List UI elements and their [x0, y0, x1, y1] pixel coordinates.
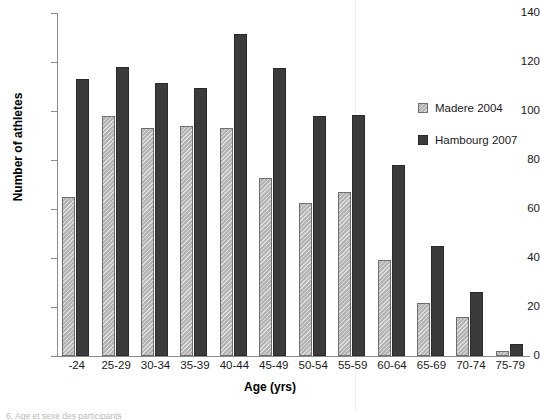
bar-madere-2004: [102, 116, 115, 356]
bar-hambourg-2007: [76, 79, 89, 356]
chart-figure: 020406080100120140 -2425-2930-3435-3940-…: [0, 0, 540, 420]
figure-caption-text: 6. Age et sexe des participants: [6, 412, 122, 420]
legend-item: Madere 2004: [418, 98, 517, 118]
figure-caption-cropped: 6. Age et sexe des participants: [0, 412, 540, 420]
bar-hambourg-2007: [234, 34, 247, 356]
bar-hambourg-2007: [116, 67, 129, 356]
bar-madere-2004: [180, 126, 193, 356]
bar-group: [102, 13, 129, 356]
bar-group: [496, 13, 523, 356]
bar-hambourg-2007: [273, 68, 286, 356]
y-axis-tick-mark: [51, 356, 57, 357]
bar-hambourg-2007: [510, 344, 523, 356]
bar-hambourg-2007: [352, 115, 365, 356]
legend-item-label: Madere 2004: [435, 102, 503, 114]
bar-madere-2004: [417, 303, 430, 356]
bar-hambourg-2007: [155, 83, 168, 356]
bar-group: [259, 13, 286, 356]
bar-hambourg-2007: [392, 165, 405, 356]
bar-hambourg-2007: [470, 292, 483, 356]
x-axis-tick-label: 40-44: [215, 360, 254, 372]
bar-hambourg-2007: [313, 116, 326, 356]
bar-madere-2004: [259, 178, 272, 356]
bar-madere-2004: [496, 351, 509, 356]
bar-group: [417, 13, 444, 356]
x-axis-tick-label: 75-79: [491, 360, 530, 372]
chart-legend: Madere 2004 Hambourg 2007: [418, 98, 517, 162]
x-axis-tick-label: 35-39: [175, 360, 214, 372]
x-axis-line: [57, 356, 530, 357]
bar-group: [456, 13, 483, 356]
bar-group: [338, 13, 365, 356]
legend-swatch-madere-icon: [418, 103, 428, 113]
legend-item-label: Hambourg 2007: [435, 134, 517, 146]
x-axis-tick-label: 65-69: [412, 360, 451, 372]
x-axis-tick-label: 30-34: [136, 360, 175, 372]
bar-madere-2004: [456, 317, 469, 356]
x-axis-tick-label: 50-54: [294, 360, 333, 372]
plot-area: [57, 13, 530, 356]
bar-group: [220, 13, 247, 356]
bar-madere-2004: [220, 128, 233, 356]
x-axis-tick-label: 55-59: [333, 360, 372, 372]
x-axis-tick-label: 25-29: [96, 360, 135, 372]
x-axis-tick-label: 45-49: [254, 360, 293, 372]
y-axis-title: Number of athletes: [11, 67, 25, 227]
legend-swatch-hambourg-icon: [418, 135, 428, 145]
bar-group: [180, 13, 207, 356]
x-axis-tick-label: 60-64: [372, 360, 411, 372]
bar-hambourg-2007: [431, 246, 444, 356]
bar-madere-2004: [299, 203, 312, 356]
bar-madere-2004: [62, 197, 75, 356]
bar-group: [378, 13, 405, 356]
bar-group: [62, 13, 89, 356]
bar-group: [141, 13, 168, 356]
x-axis-tick-label: -24: [57, 360, 96, 372]
bar-madere-2004: [338, 192, 351, 356]
legend-item: Hambourg 2007: [418, 130, 517, 150]
bar-hambourg-2007: [194, 88, 207, 356]
bar-madere-2004: [141, 128, 154, 356]
bar-group: [299, 13, 326, 356]
bar-madere-2004: [378, 260, 391, 356]
x-axis-title: Age (yrs): [0, 380, 540, 394]
x-axis-tick-label: 70-74: [451, 360, 490, 372]
